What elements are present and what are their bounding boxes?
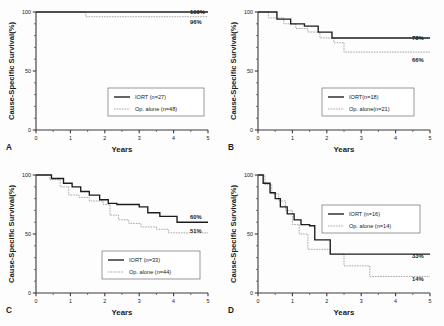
legend-label-iort: IORT(n=18) <box>349 94 379 100</box>
curve-op-alone <box>258 12 430 52</box>
panel-c-chart: 012345100500 Cause-Specific Survival(%) … <box>0 163 222 326</box>
y-tick-label: 50 <box>247 231 253 237</box>
x-tick-label: 3 <box>138 135 141 141</box>
legend-label-op: Op. alone (n=14) <box>349 223 391 229</box>
x-tick-label: 3 <box>360 135 363 141</box>
endpoint-label-iort: 78% <box>412 35 424 41</box>
endpoint-label-iort: 60% <box>190 214 202 220</box>
x-tick-label: 5 <box>429 298 432 304</box>
x-tick-label: 2 <box>325 135 328 141</box>
panel-a-legend: IORT (n=27) Op. alone (n=48) <box>108 88 204 116</box>
legend-label-op: Op. alone (n=44) <box>129 269 171 275</box>
panel-b-tick-labels: 012345100500 <box>244 9 432 141</box>
x-tick-label: 4 <box>172 135 175 141</box>
x-tick-label: 2 <box>103 135 106 141</box>
panel-a-chart: 012345100500 Cause-Specific Survival(%) … <box>0 0 222 163</box>
legend-label-op: Op. alone (n=48) <box>135 106 177 112</box>
x-tick-label: 2 <box>325 298 328 304</box>
legend-label-iort: IORT (n=27) <box>135 94 166 100</box>
panel-d-tick-labels: 012345100500 <box>244 172 432 304</box>
x-tick-label: 0 <box>257 135 260 141</box>
endpoint-label-iort: 100% <box>190 9 205 15</box>
x-tick-label: 1 <box>69 298 72 304</box>
panel-letter: C <box>6 306 12 315</box>
panel-a: 012345100500 Cause-Specific Survival(%) … <box>0 0 222 163</box>
y-tick-label: 50 <box>25 68 31 74</box>
legend-label-iort: IORT (n=33) <box>129 257 160 263</box>
x-tick-label: 1 <box>291 135 294 141</box>
curve-iort <box>36 175 208 222</box>
panel-letter: D <box>228 306 234 315</box>
y-tick-label: 0 <box>250 127 253 133</box>
endpoint-label-op: 51% <box>190 228 202 234</box>
x-tick-label: 1 <box>69 135 72 141</box>
panel-b-chart: 012345100500 Cause-Specific Survival(%) … <box>222 0 444 163</box>
x-tick-label: 4 <box>394 135 397 141</box>
y-axis-title: Cause-Specific Survival(%) <box>7 185 16 283</box>
x-axis-title: Years <box>112 308 133 317</box>
x-tick-label: 0 <box>257 298 260 304</box>
y-tick-label: 100 <box>22 9 31 15</box>
panel-letter: B <box>228 143 234 152</box>
panel-d-chart: 012345100500 Cause-Specific Survival(%) … <box>222 163 444 326</box>
y-tick-label: 100 <box>244 9 253 15</box>
y-tick-label: 100 <box>22 172 31 178</box>
panel-c-legend: IORT (n=33) Op. alone (n=44) <box>102 251 200 279</box>
x-tick-label: 5 <box>207 298 210 304</box>
x-axis-title: Years <box>334 145 355 154</box>
legend-label-iort: IORT (n=16) <box>349 211 380 217</box>
x-axis-title: Years <box>112 145 133 154</box>
x-tick-label: 4 <box>172 298 175 304</box>
survival-curves-figure: 012345100500 Cause-Specific Survival(%) … <box>0 0 444 326</box>
x-tick-label: 3 <box>138 298 141 304</box>
x-tick-label: 3 <box>360 298 363 304</box>
x-tick-label: 5 <box>429 135 432 141</box>
x-tick-label: 5 <box>207 135 210 141</box>
endpoint-label-op: 14% <box>412 276 424 282</box>
panel-d-axes <box>258 175 430 293</box>
y-tick-label: 50 <box>25 231 31 237</box>
panel-d-ticks <box>255 175 430 296</box>
y-axis-title: Cause-Specific Survival(%) <box>229 185 238 283</box>
y-tick-label: 0 <box>28 127 31 133</box>
panel-d: 012345100500 Cause-Specific Survival(%) … <box>222 163 444 326</box>
endpoint-label-op: 96% <box>190 19 202 25</box>
panel-c: 012345100500 Cause-Specific Survival(%) … <box>0 163 222 326</box>
x-tick-label: 2 <box>103 298 106 304</box>
x-tick-label: 4 <box>394 298 397 304</box>
legend-label-op: Op. alone(n=21) <box>349 106 390 112</box>
panel-b: 012345100500 Cause-Specific Survival(%) … <box>222 0 444 163</box>
y-axis-title: Cause-Specific Survival(%) <box>229 22 238 120</box>
curve-iort <box>258 12 430 38</box>
x-tick-label: 0 <box>35 135 38 141</box>
x-axis-title: Years <box>334 308 355 317</box>
y-tick-label: 0 <box>28 290 31 296</box>
panel-d-legend: IORT (n=16) Op. alone (n=14) <box>322 205 420 233</box>
x-tick-label: 0 <box>35 298 38 304</box>
y-axis-title: Cause-Specific Survival(%) <box>7 22 16 120</box>
y-tick-label: 0 <box>250 290 253 296</box>
endpoint-label-iort: 33% <box>412 253 424 259</box>
curve-op-alone <box>36 12 208 17</box>
y-tick-label: 50 <box>247 68 253 74</box>
panel-a-tick-labels: 012345100500 <box>22 9 210 141</box>
panel-c-tick-labels: 012345100500 <box>22 172 210 304</box>
panel-b-legend: IORT(n=18) Op. alone(n=21) <box>322 88 414 116</box>
x-tick-label: 1 <box>291 298 294 304</box>
y-tick-label: 100 <box>244 172 253 178</box>
endpoint-label-op: 66% <box>412 57 424 63</box>
panel-letter: A <box>6 143 12 152</box>
